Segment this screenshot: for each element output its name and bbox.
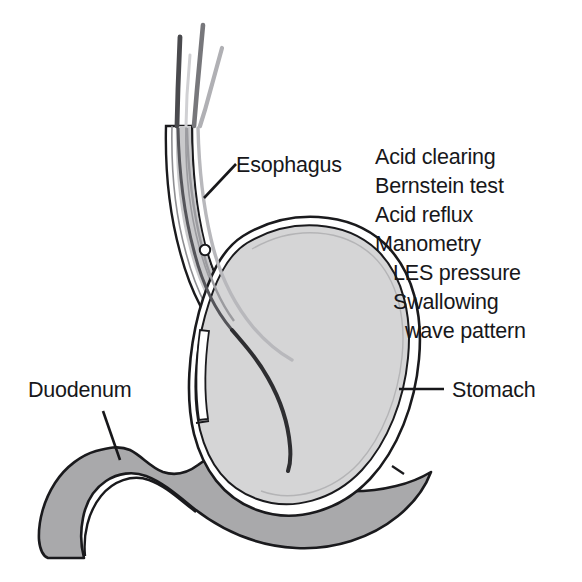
sensor-marker-icon: [200, 245, 210, 255]
anatomy-figure: Esophagus Duodenum Stomach Acid clearing…: [0, 0, 582, 582]
test-list-item-acid-reflux: Acid reflux: [375, 203, 474, 227]
label-esophagus: Esophagus: [236, 153, 342, 177]
catheter-tube-mid: [194, 25, 203, 126]
leader-line-esophagus: [204, 164, 236, 198]
test-list-item-bernstein-test: Bernstein test: [375, 174, 504, 198]
label-duodenum: Duodenum: [28, 378, 132, 402]
test-list-item-swallowing: Swallowing: [393, 290, 499, 314]
test-list-item-manometry: Manometry: [375, 232, 481, 256]
catheter-tube-light: [200, 48, 222, 126]
catheter-tubes: [177, 25, 222, 126]
pyloric-notch: [392, 466, 404, 474]
label-stomach: Stomach: [452, 378, 535, 402]
test-list: Acid clearing Bernstein test Acid reflux…: [375, 145, 526, 343]
anatomy-illustration: Esophagus Duodenum Stomach Acid clearing…: [0, 0, 582, 582]
stomach-shape: [189, 217, 420, 516]
catheter-tube-dark: [177, 37, 180, 126]
test-list-item-wave-pattern: wave pattern: [404, 319, 526, 343]
test-list-item-acid-clearing: Acid clearing: [375, 145, 496, 169]
catheter-tube-pale: [186, 55, 190, 126]
test-list-item-les-pressure: LES pressure: [393, 261, 521, 285]
